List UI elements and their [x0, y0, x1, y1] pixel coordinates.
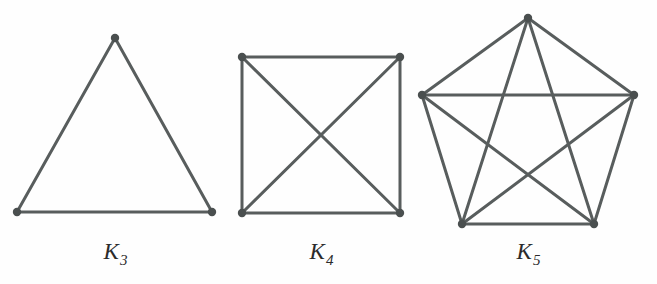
graph-vertex-k4-top-right — [396, 53, 404, 61]
graph-vertex-k4-bottom-left — [238, 209, 246, 217]
graph-label-letter-k5: K — [517, 239, 532, 264]
graph-vertex-k5-bottom-right — [590, 220, 598, 228]
complete-graphs-figure: K3 K4 K5 — [0, 0, 657, 284]
graph-edge-k5-left-top — [422, 18, 528, 95]
graph-edge-k5-bottom-left-left — [422, 95, 462, 224]
graph-edge-k3-apex-bottom-right — [115, 38, 212, 212]
graph-label-letter-k3: K — [104, 239, 119, 264]
graph-vertex-k3-apex — [111, 34, 119, 42]
graph-vertex-k3-bottom-right — [208, 208, 216, 216]
graph-label-subscript-k4: 4 — [326, 252, 334, 268]
graph-vertex-k5-bottom-left — [458, 220, 466, 228]
graph-edge-k5-top-right — [528, 18, 634, 95]
graph-label-subscript-k5: 5 — [533, 252, 541, 268]
graph-vertex-k5-top — [524, 14, 532, 22]
graph-label-k4: K4 — [310, 240, 333, 263]
graph-edge-k5-right-bottom-left — [462, 95, 634, 224]
graph-label-subscript-k3: 3 — [120, 252, 128, 268]
graph-edge-k5-top-bottom-right — [528, 18, 594, 224]
graph-label-letter-k4: K — [310, 239, 325, 264]
graph-edge-k5-right-bottom-right — [594, 95, 634, 224]
graph-k4 — [238, 53, 404, 217]
graph-vertex-k5-right — [630, 91, 638, 99]
graph-vertex-k3-bottom-left — [13, 208, 21, 216]
graph-label-k5: K5 — [517, 240, 540, 263]
graph-vertex-k5-left — [418, 91, 426, 99]
graph-edge-k5-top-bottom-left — [462, 18, 528, 224]
graph-k3 — [13, 34, 216, 216]
graph-edge-k3-apex-bottom-left — [17, 38, 115, 212]
graph-vertex-k4-bottom-right — [396, 209, 404, 217]
graph-edge-k5-bottom-right-left — [422, 95, 594, 224]
graph-k5 — [418, 14, 638, 228]
graph-label-k3: K3 — [104, 240, 127, 263]
graph-vertex-k4-top-left — [238, 53, 246, 61]
